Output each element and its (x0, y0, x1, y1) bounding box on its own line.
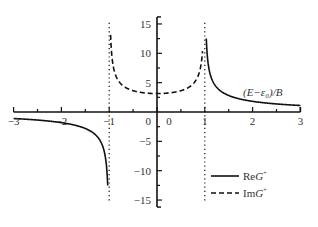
x-tick-label: −3 (8, 115, 20, 127)
x-tick-label: 3 (298, 115, 304, 127)
x-tick-label: 2 (250, 115, 256, 127)
legend-label-im: ImG+ (243, 187, 267, 199)
y-tick-label: −5 (139, 135, 151, 147)
legend-label-re: ReG+ (243, 170, 267, 182)
x-tick-label: 1 (202, 115, 208, 127)
legend: ReG+ ImG+ (211, 170, 267, 199)
y-tick-label: 10 (140, 47, 152, 59)
y-tick-label: −10 (134, 165, 152, 177)
x-axis-title: (E−ε₀)/B (243, 86, 283, 99)
x-tick-label: −2 (56, 115, 68, 127)
y-tick-label: −15 (134, 194, 152, 206)
y-tick-label: 15 (140, 18, 152, 30)
y-tick-label: 5 (146, 77, 152, 89)
green-function-chart: −3−2−10123 −15−10−5051015 (E−ε₀)/B ReG+ … (0, 0, 318, 227)
y-tick-label: 0 (146, 115, 152, 127)
re-g-curve-left (14, 119, 108, 186)
x-tick-label: −1 (103, 115, 115, 127)
x-tick-label: 0 (166, 115, 172, 127)
